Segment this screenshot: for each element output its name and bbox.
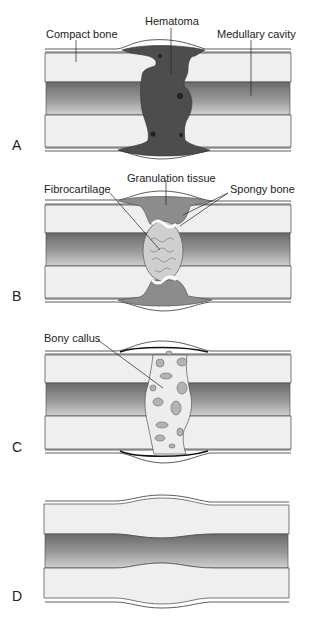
compact-bone-upper [44, 498, 289, 538]
label-spongy-bone: Spongy bone [230, 183, 295, 195]
label-fibrocartilage: Fibrocartilage [44, 183, 111, 195]
periosteum-bottom [45, 453, 291, 463]
panel-label-c: C [12, 439, 22, 455]
label-medullary-cavity: Medullary cavity [217, 28, 296, 40]
panel-label-a: A [12, 137, 22, 153]
fracture-healing-diagram: Compact bone Hematoma Medullary cavity A… [0, 0, 312, 617]
panel-b: Fibrocartilage Granulation tissue Spongy… [12, 172, 295, 311]
panel-label-b: B [12, 288, 21, 304]
label-bony-callus: Bony callus [44, 332, 101, 344]
panel-label-d: D [12, 588, 22, 604]
panel-c: Bony callus C [12, 332, 291, 463]
panel-a: Compact bone Hematoma Medullary cavity A [12, 15, 296, 159]
panel-d: D [12, 495, 289, 608]
label-hematoma: Hematoma [145, 15, 200, 27]
compact-bone-lower [44, 563, 289, 604]
label-granulation-tissue: Granulation tissue [127, 172, 216, 184]
fibrocartilage [143, 221, 183, 281]
label-compact-bone: Compact bone [46, 28, 118, 40]
